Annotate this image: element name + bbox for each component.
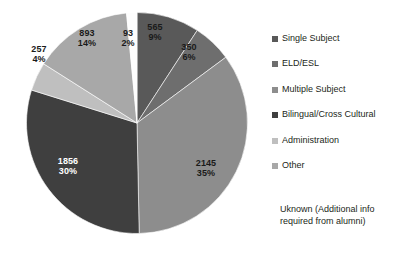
slice-value: 2145 xyxy=(188,158,224,168)
slice-percent: 4% xyxy=(24,54,54,64)
legend-label: Multiple Subject xyxy=(282,85,346,95)
legend-item-multiple-subject[interactable]: Multiple Subject xyxy=(272,77,412,103)
slice-label-multiple-subject: 2145 35% xyxy=(188,158,224,178)
slice-value: 893 xyxy=(70,28,104,38)
slice-percent: 6% xyxy=(172,52,206,62)
slice-value: 565 xyxy=(138,22,172,32)
legend-swatch-icon xyxy=(272,87,278,93)
slice-label-other: 893 14% xyxy=(70,28,104,48)
legend-label: Bilingual/Cross Cultural xyxy=(282,110,376,120)
pie-chart: 565 9% 350 6% 2145 35% 1856 30% 257 4% 8… xyxy=(0,0,412,255)
legend-item-eld-esl[interactable]: ELD/ESL xyxy=(272,52,412,78)
legend-swatch-icon xyxy=(272,163,278,169)
slice-value: 257 xyxy=(24,44,54,54)
slice-label-bilingual-cross-cultural: 1856 30% xyxy=(50,156,86,176)
slice-percent: 35% xyxy=(188,168,224,178)
slice-percent: 9% xyxy=(138,32,172,42)
legend-item-other[interactable]: Other xyxy=(272,154,412,180)
legend-label: Other xyxy=(282,161,305,171)
legend-label: Single Subject xyxy=(282,34,340,44)
slice-label-unlabeled: 93 2% xyxy=(116,28,140,48)
legend-item-administration[interactable]: Administration xyxy=(272,128,412,154)
legend-swatch-icon xyxy=(272,138,278,144)
slice-label-administration: 257 4% xyxy=(24,44,54,64)
legend-item-single-subject[interactable]: Single Subject xyxy=(272,26,412,52)
legend-swatch-icon xyxy=(272,61,278,67)
slice-label-single-subject: 565 9% xyxy=(138,22,172,42)
legend-footnote: Uknown (Additional info required from al… xyxy=(280,203,410,227)
slice-percent: 14% xyxy=(70,38,104,48)
legend-label: Administration xyxy=(282,136,339,146)
legend-item-bilingual-cross-cultural[interactable]: Bilingual/Cross Cultural xyxy=(272,103,412,129)
slice-value: 350 xyxy=(172,42,206,52)
legend-label: ELD/ESL xyxy=(282,59,319,69)
legend-swatch-icon xyxy=(272,112,278,118)
slice-value: 1856 xyxy=(50,156,86,166)
chart-legend: Single Subject ELD/ESL Multiple Subject … xyxy=(272,26,412,179)
slice-label-eld-esl: 350 6% xyxy=(172,42,206,62)
slice-percent: 2% xyxy=(116,38,140,48)
slice-percent: 30% xyxy=(50,166,86,176)
pie-graphic: 565 9% 350 6% 2145 35% 1856 30% 257 4% 8… xyxy=(26,12,248,234)
slice-value: 93 xyxy=(116,28,140,38)
legend-swatch-icon xyxy=(272,36,278,42)
